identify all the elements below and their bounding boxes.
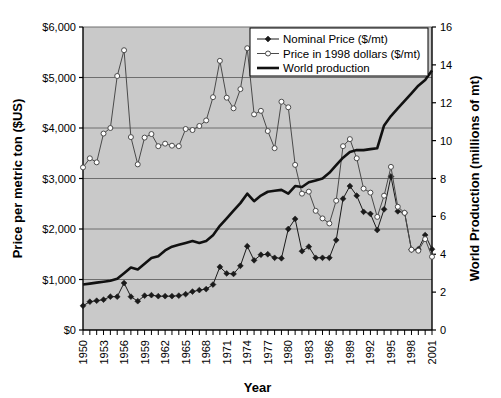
legend: Nominal Price ($/mt)Price in 1998 dollar… [250, 28, 428, 76]
data-point-marker [313, 208, 318, 213]
x-axis-tick-label: 1977 [262, 340, 274, 364]
y-axis-right-title: World Production (millions of mt) [467, 76, 482, 282]
data-point-marker [190, 128, 195, 133]
y-axis-left-tick-label: $6,000 [42, 21, 76, 33]
x-axis-tick-label: 2001 [426, 340, 438, 364]
data-point-marker [341, 144, 346, 149]
y-axis-left-tick-label: $0 [64, 324, 76, 336]
data-point-marker [430, 254, 435, 259]
data-point-marker [245, 46, 250, 51]
data-point-marker [402, 210, 407, 215]
data-point-marker [231, 106, 236, 111]
x-axis-tick-label: 1956 [118, 340, 130, 364]
data-point-marker [279, 99, 284, 104]
y-axis-left-tick-label: $4,000 [42, 122, 76, 134]
x-axis-tick-label: 1950 [77, 340, 89, 364]
data-point-marker [176, 144, 181, 149]
y-axis-right-tick-label: 6 [440, 210, 446, 222]
y-axis-right-tick-label: 0 [440, 324, 446, 336]
y-axis-left-tick-label: $5,000 [42, 72, 76, 84]
price-production-line-chart: $0$1,000$2,000$3,000$4,000$5,000$6,000Pr… [0, 0, 501, 398]
data-point-marker [258, 108, 263, 113]
data-point-marker [122, 48, 127, 53]
x-axis-tick-label: 1971 [221, 340, 233, 364]
y-axis-left: $0$1,000$2,000$3,000$4,000$5,000$6,000 [42, 21, 83, 336]
data-point-marker [327, 221, 332, 226]
legend-label-2: World production [283, 62, 370, 74]
data-point-marker [416, 248, 421, 253]
x-axis-tick-label: 1962 [159, 340, 171, 364]
data-point-marker [204, 118, 209, 123]
data-point-marker [224, 95, 229, 100]
y-axis-right-tick-label: 16 [440, 21, 452, 33]
x-axis-tick-label: 1992 [364, 340, 376, 364]
y-axis-right-tick-label: 14 [440, 59, 452, 71]
data-point-marker [286, 105, 291, 110]
data-point-marker [361, 186, 366, 191]
data-point-marker [156, 144, 161, 149]
x-axis-tick-label: 1986 [323, 340, 335, 364]
y-axis-left-tick-label: $3,000 [42, 173, 76, 185]
data-point-marker [115, 73, 120, 78]
legend-label-1: Price in 1998 dollars ($/mt) [283, 48, 421, 60]
data-point-marker [395, 204, 400, 209]
y-axis-left-tick-label: $2,000 [42, 223, 76, 235]
legend-label-0: Nominal Price ($/mt) [283, 33, 388, 45]
data-point-marker [87, 156, 92, 161]
legend-marker-circle-icon [266, 51, 271, 56]
data-point-marker [299, 191, 304, 196]
y-axis-right-tick-label: 12 [440, 97, 452, 109]
data-point-marker [272, 146, 277, 151]
y-axis-right-tick-label: 8 [440, 173, 446, 185]
data-point-marker [135, 162, 140, 167]
data-point-marker [306, 189, 311, 194]
data-point-marker [169, 143, 174, 148]
data-point-marker [409, 247, 414, 252]
x-axis-tick-label: 1989 [344, 340, 356, 364]
y-axis-left-tick-label: $1,000 [42, 274, 76, 286]
y-axis-right-tick-label: 2 [440, 286, 446, 298]
x-axis-tick-label: 1995 [385, 340, 397, 364]
y-axis-right-tick-label: 10 [440, 135, 452, 147]
data-point-marker [293, 162, 298, 167]
data-point-marker [238, 87, 243, 92]
data-point-marker [334, 198, 339, 203]
x-axis-tick-label: 1965 [180, 340, 192, 364]
x-axis-tick-label: 1980 [282, 340, 294, 364]
data-point-marker [142, 135, 147, 140]
x-axis-tick-label: 1974 [241, 340, 253, 364]
x-axis: 1950195319561959196219651968197119741977… [77, 330, 438, 364]
data-point-marker [101, 131, 106, 136]
x-axis-tick-label: 1968 [200, 340, 212, 364]
data-point-marker [388, 164, 393, 169]
x-axis-tick-label: 1983 [303, 340, 315, 364]
data-point-marker [423, 237, 428, 242]
data-point-marker [347, 137, 352, 142]
data-point-marker [163, 141, 168, 146]
data-point-marker [217, 58, 222, 63]
data-point-marker [375, 214, 380, 219]
data-point-marker [149, 132, 154, 137]
data-point-marker [252, 112, 257, 117]
data-point-marker [197, 123, 202, 128]
data-point-marker [354, 156, 359, 161]
x-axis-tick-label: 1998 [405, 340, 417, 364]
data-point-marker [382, 193, 387, 198]
data-point-marker [265, 129, 270, 134]
data-point-marker [81, 165, 86, 170]
data-point-marker [368, 190, 373, 195]
data-point-marker [128, 135, 133, 140]
data-point-marker [320, 216, 325, 221]
x-axis-tick-label: 1953 [98, 340, 110, 364]
x-axis-tick-label: 1959 [139, 340, 151, 364]
y-axis-right-tick-label: 4 [440, 248, 446, 260]
data-point-marker [108, 126, 113, 131]
y-axis-right: 0246810121416 [432, 21, 452, 336]
y-axis-left-title: Price per metric ton ($US) [10, 99, 25, 259]
data-point-marker [211, 95, 216, 100]
chart-container: $0$1,000$2,000$3,000$4,000$5,000$6,000Pr… [0, 0, 501, 398]
x-axis-title: Year [244, 380, 271, 395]
data-point-marker [94, 160, 99, 165]
data-point-marker [183, 127, 188, 132]
